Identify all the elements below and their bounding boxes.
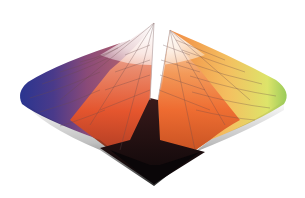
double-cone-illustration	[0, 0, 305, 198]
color-solid-figure	[0, 0, 305, 198]
